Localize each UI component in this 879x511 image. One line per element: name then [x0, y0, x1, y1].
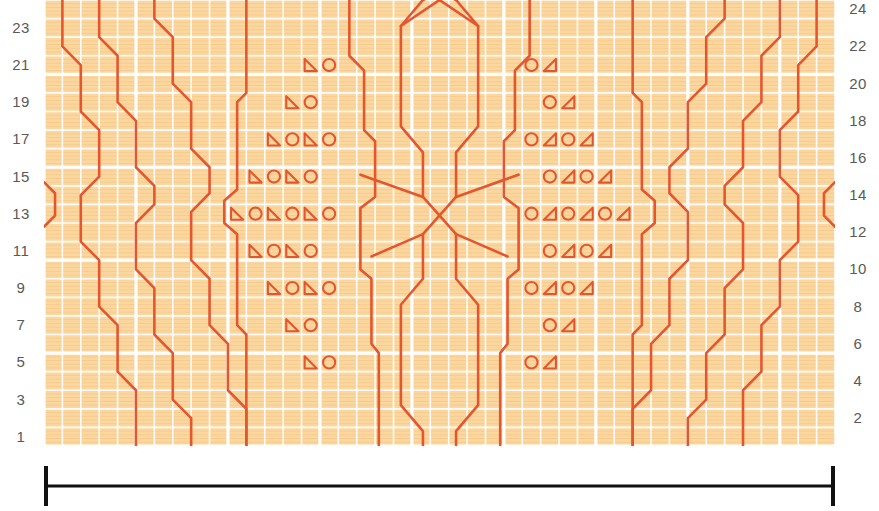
chart-plot-area	[44, 0, 835, 446]
chart-symbol-triangle-right	[581, 133, 593, 145]
row-number-23: 23	[0, 20, 42, 35]
chart-symbol-circle	[323, 59, 335, 71]
chart-symbol-circle	[525, 59, 537, 71]
travelling-line-right-1	[743, 0, 817, 446]
chart-symbol-triangle-left	[268, 208, 280, 220]
chart-symbol-triangle-left	[286, 245, 298, 257]
chart-symbol-circle	[525, 282, 537, 294]
row-number-24: 24	[837, 1, 879, 16]
travelling-line-right-4	[633, 0, 725, 446]
row-number-3: 3	[0, 392, 42, 407]
chart-symbol-triangle-right	[581, 208, 593, 220]
top-crossing-c	[401, 0, 456, 26]
center-feed-right-upper	[456, 175, 519, 197]
chart-symbol-triangle-right	[544, 133, 556, 145]
center-feed-right-lower	[456, 234, 508, 256]
row-number-12: 12	[837, 224, 879, 239]
chart-symbol-circle	[286, 208, 298, 220]
pattern-repeat-width-bracket	[44, 462, 835, 508]
chart-symbol-triangle-left	[305, 282, 317, 294]
chart-symbol-circle	[268, 245, 280, 257]
hexagon-upper-left-wall	[401, 0, 423, 197]
chart-symbol-triangle-right	[581, 282, 593, 294]
chart-symbol-circle	[323, 133, 335, 145]
knitting-cable-chart: 2321191715131197531 24222018161412108642	[0, 0, 879, 511]
chart-symbol-circle	[323, 356, 335, 368]
center-feed-left-lower	[371, 234, 423, 256]
chart-symbol-triangle-left	[249, 245, 261, 257]
chart-symbol-triangle-left	[249, 170, 261, 182]
chart-symbol-triangle-right	[562, 96, 574, 108]
row-number-10: 10	[837, 261, 879, 276]
chart-symbol-triangle-left	[286, 170, 298, 182]
row-number-7: 7	[0, 317, 42, 332]
chart-symbol-circle	[305, 245, 317, 257]
chart-symbol-circle	[544, 319, 556, 331]
chart-symbol-circle	[249, 208, 261, 220]
chart-symbol-circle	[305, 96, 317, 108]
chart-symbol-circle	[599, 208, 611, 220]
left-row-number-axis: 2321191715131197531	[0, 0, 42, 446]
row-number-4: 4	[837, 373, 879, 388]
hexagon-lower-left-wall	[401, 234, 423, 446]
row-number-14: 14	[837, 187, 879, 202]
chart-symbol-triangle-left	[305, 356, 317, 368]
chart-symbol-circle	[562, 208, 574, 220]
chart-symbol-triangle-right	[544, 208, 556, 220]
chart-symbol-circle	[323, 282, 335, 294]
row-number-13: 13	[0, 206, 42, 221]
chart-symbol-triangle-right	[544, 282, 556, 294]
hexagon-lower-right-wall	[456, 234, 478, 446]
chart-symbol-circle	[268, 170, 280, 182]
chart-symbol-triangle-right	[562, 319, 574, 331]
cable-lines-and-symbols	[44, 0, 835, 446]
chart-symbol-circle	[525, 356, 537, 368]
chart-symbol-circle	[305, 170, 317, 182]
travelling-line-right-3	[824, 182, 835, 227]
chart-symbol-circle	[562, 282, 574, 294]
row-number-22: 22	[837, 38, 879, 53]
chart-symbol-triangle-left	[305, 208, 317, 220]
chart-symbol-circle	[323, 208, 335, 220]
chart-symbol-triangle-right	[562, 170, 574, 182]
right-row-number-axis: 24222018161412108642	[837, 0, 879, 446]
travelling-line-left-1	[62, 0, 136, 446]
row-number-9: 9	[0, 280, 42, 295]
chart-symbol-circle	[544, 170, 556, 182]
center-feed-left-upper	[360, 175, 423, 197]
chart-symbol-circle	[581, 245, 593, 257]
chart-symbol-circle	[562, 133, 574, 145]
row-number-18: 18	[837, 113, 879, 128]
row-number-17: 17	[0, 131, 42, 146]
row-number-1: 1	[0, 429, 42, 444]
travelling-line-left-3	[44, 182, 55, 227]
chart-symbol-triangle-right	[544, 356, 556, 368]
chart-symbol-circle	[286, 282, 298, 294]
travelling-line-left-2	[99, 0, 191, 446]
row-number-19: 19	[0, 94, 42, 109]
chart-symbol-circle	[581, 170, 593, 182]
chart-symbol-circle	[286, 133, 298, 145]
chart-symbol-triangle-right	[599, 245, 611, 257]
chart-symbol-triangle-left	[286, 319, 298, 331]
row-number-5: 5	[0, 354, 42, 369]
travelling-line-left-6	[349, 0, 378, 446]
chart-symbol-triangle-left	[268, 133, 280, 145]
travelling-line-left-4	[154, 0, 246, 446]
chart-symbol-triangle-right	[599, 170, 611, 182]
chart-symbol-circle	[525, 133, 537, 145]
chart-symbol-circle	[525, 208, 537, 220]
row-number-15: 15	[0, 169, 42, 184]
row-number-8: 8	[837, 299, 879, 314]
chart-symbol-circle	[305, 319, 317, 331]
row-number-20: 20	[837, 76, 879, 91]
chart-symbol-triangle-left	[231, 208, 243, 220]
top-crossing-d	[423, 0, 478, 26]
row-number-16: 16	[837, 150, 879, 165]
chart-symbol-triangle-left	[268, 282, 280, 294]
row-number-2: 2	[837, 410, 879, 425]
chart-symbol-triangle-left	[286, 96, 298, 108]
hexagon-upper-right-wall	[456, 0, 478, 197]
chart-symbol-triangle-right	[544, 59, 556, 71]
chart-symbol-circle	[544, 245, 556, 257]
